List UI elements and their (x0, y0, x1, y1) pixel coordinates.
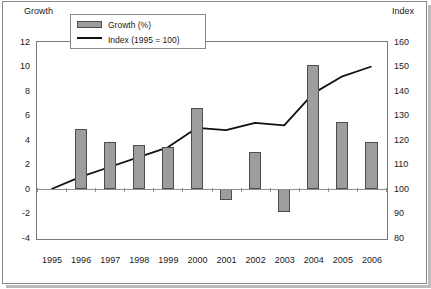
plot-inner (37, 42, 387, 239)
left-axis-tick: -2 (4, 208, 30, 218)
x-axis-tickmark (270, 188, 271, 192)
legend-label-growth: Growth (%) (108, 20, 151, 30)
right-axis-tick: 130 (394, 110, 420, 120)
bar (220, 189, 232, 200)
right-axis-tick: 110 (394, 159, 420, 169)
x-axis-tickmark (66, 188, 67, 192)
x-axis-tickmark (299, 188, 300, 192)
right-axis-tick: 100 (394, 184, 420, 194)
left-axis-tick: -4 (4, 233, 30, 243)
bar (75, 129, 87, 189)
x-axis-tickmark (95, 188, 96, 192)
bar (104, 142, 116, 189)
left-axis-tick: 2 (4, 159, 30, 169)
left-axis-tick: 0 (4, 184, 30, 194)
left-axis-tick: 12 (4, 37, 30, 47)
legend-item-index: Index (1995 = 100) (77, 34, 180, 45)
right-axis-tick: 140 (394, 86, 420, 96)
right-axis-tick: 120 (394, 135, 420, 145)
bar (133, 145, 145, 189)
legend-label-index: Index (1995 = 100) (108, 35, 180, 45)
chart-legend: Growth (%) Index (1995 = 100) (70, 14, 206, 49)
right-axis-tick: 80 (394, 233, 420, 243)
left-axis-tick: 10 (4, 61, 30, 71)
legend-item-growth: Growth (%) (77, 19, 151, 30)
right-axis-tick: 160 (394, 37, 420, 47)
left-axis-tick: 8 (4, 86, 30, 96)
right-axis-tick: 90 (394, 208, 420, 218)
bar (191, 108, 203, 189)
chart-screenshot: Growth Index 121086420-2-4 1601501401301… (0, 0, 431, 289)
index-line-path (52, 67, 372, 190)
plot-area (36, 41, 388, 240)
x-axis-tickmark (153, 188, 154, 192)
bar (336, 122, 348, 189)
bar-swatch-icon (77, 21, 102, 28)
right-axis-title: Index (392, 6, 414, 16)
bar (249, 152, 261, 189)
x-axis-tickmark (182, 188, 183, 192)
frame-shadow-bottom (6, 285, 430, 288)
x-axis-tickmark (37, 188, 38, 192)
bar (278, 189, 290, 212)
left-axis-tick: 4 (4, 135, 30, 145)
x-axis-tickmark (328, 188, 329, 192)
right-axis-tick: 150 (394, 61, 420, 71)
bar (365, 142, 377, 189)
x-axis-tickmark (212, 188, 213, 192)
x-axis-tickmark (241, 188, 242, 192)
left-axis-title: Growth (24, 6, 53, 16)
bar (307, 65, 319, 189)
x-axis-tickmark (357, 188, 358, 192)
x-axis-tick: 2006 (352, 255, 392, 265)
bar (162, 147, 174, 189)
x-axis-tickmark (124, 188, 125, 192)
left-axis-tick: 6 (4, 110, 30, 120)
line-series-index (37, 42, 386, 238)
x-axis-tickmark (386, 188, 387, 192)
line-swatch-icon (77, 37, 102, 39)
